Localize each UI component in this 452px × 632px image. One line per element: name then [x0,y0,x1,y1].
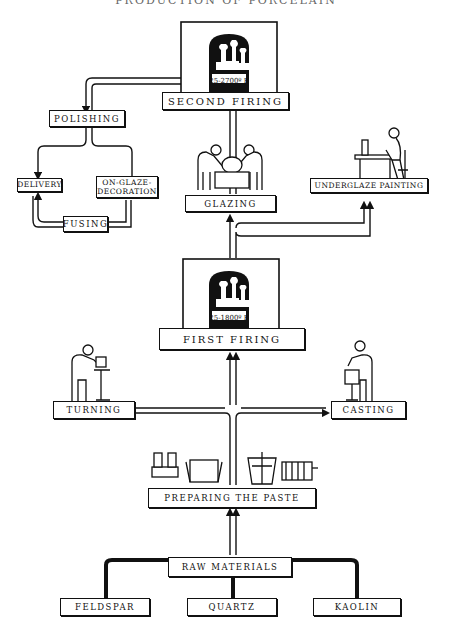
first-firing-temperature: 25-1800º F [209,312,249,323]
material-kaolin: KAOLIN [313,598,401,616]
on-glaze-line1: ON-GLAZE- [102,178,152,187]
step-raw-materials: RAW MATERIALS [168,557,292,577]
paste-machinery-icon [152,452,318,484]
step-turning: TURNING [53,401,135,419]
second-firing-temperature: 25-2700º F [209,75,249,86]
step-second-firing: SECOND FIRING [162,92,289,110]
on-glaze-line2: DECORATION [97,187,157,196]
porcelain-production-flowchart: PRODUCTION OF PORCELAIN [0,0,452,632]
kiln-icon [181,22,277,98]
kiln-icon [183,259,279,335]
step-on-glaze-decoration: ON-GLAZE- DECORATION [96,176,158,198]
step-preparing-paste: PREPARING THE PASTE [148,488,316,508]
material-feldspar: FELDSPAR [60,598,150,616]
caster-icon [345,341,372,402]
step-first-firing: FIRST FIRING [159,328,305,350]
painter-at-desk-icon [355,128,408,180]
step-polishing: POLISHING [49,110,125,127]
material-quartz: QUARTZ [187,598,277,616]
potter-turning-icon [72,345,110,402]
step-glazing: GLAZING [185,195,276,212]
step-fusing: FUSING [63,216,108,232]
step-delivery: DELIVERY [17,178,62,192]
step-casting: CASTING [331,401,406,419]
step-underglaze-painting: UNDERGLAZE PAINTING [310,178,428,193]
